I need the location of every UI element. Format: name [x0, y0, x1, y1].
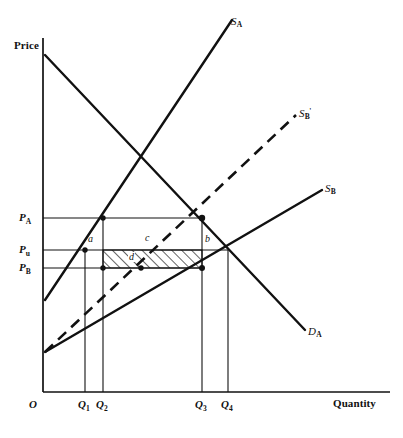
point-marker-sb-pb — [199, 265, 205, 271]
curve-label-sb-base: S — [325, 182, 331, 194]
quantity-tick-q4: Q4 — [221, 399, 233, 410]
quantity-tick-q3-sub: 3 — [203, 404, 207, 413]
curve-label-sb-prime: SB' — [299, 108, 311, 119]
supply-curve-sb — [45, 190, 322, 352]
diagram-canvas — [0, 0, 403, 438]
quantity-tick-q1-sub: 1 — [86, 404, 90, 413]
region-label-b: b — [205, 234, 210, 244]
curve-label-sa: SA — [231, 16, 242, 27]
quantity-tick-q2: Q2 — [96, 399, 108, 410]
curve-label-da-sub: A — [316, 330, 321, 339]
price-tick-pb-sub: B — [26, 267, 31, 276]
curve-label-sbprime-base: S — [299, 107, 305, 119]
curve-label-da-base: D — [308, 325, 316, 337]
point-marker-q2-pb — [100, 265, 105, 270]
origin-label: O — [29, 399, 37, 410]
point-marker-da-pa — [199, 215, 205, 221]
curve-label-sb: SB — [325, 183, 336, 194]
quantity-tick-q4-sub: 4 — [229, 404, 233, 413]
curve-label-sb-sub: B — [331, 187, 336, 196]
supply-demand-figure: Price Quantity O SA SB' SB DA PA Pu PB Q… — [0, 0, 403, 438]
price-tick-pu: Pu — [19, 244, 30, 255]
price-tick-pu-sub: u — [26, 249, 30, 258]
price-tick-pb: PB — [19, 262, 31, 273]
quantity-tick-q3-base: Q — [195, 398, 203, 410]
curve-label-da: DA — [308, 326, 321, 337]
price-tick-pb-base: P — [19, 261, 26, 273]
quantity-tick-q3: Q3 — [195, 399, 207, 410]
price-tick-pa-sub: A — [26, 217, 31, 226]
region-label-a: a — [88, 234, 93, 244]
demand-curve-da — [45, 55, 305, 330]
price-tick-pa-base: P — [19, 211, 26, 223]
quantity-tick-q1: Q1 — [78, 399, 90, 410]
curve-label-sbprime-mark: ' — [310, 106, 312, 116]
price-tick-pa: PA — [19, 212, 31, 223]
quantity-tick-q1-base: Q — [78, 398, 86, 410]
y-axis-title: Price — [14, 40, 39, 51]
hatched-region-d — [103, 250, 202, 268]
point-marker-sa-pu — [82, 247, 87, 252]
price-tick-pu-base: P — [19, 243, 26, 255]
quantity-tick-q2-base: Q — [96, 398, 104, 410]
x-axis-title: Quantity — [333, 398, 376, 409]
region-label-c: c — [145, 233, 149, 243]
curve-label-sa-base: S — [231, 15, 237, 27]
region-label-d: d — [128, 252, 135, 262]
quantity-tick-q4-base: Q — [221, 398, 229, 410]
curve-label-sa-sub: A — [237, 20, 242, 29]
curve-label-sbprime-sub: B — [305, 112, 310, 121]
supply-curve-sb-prime — [45, 115, 296, 352]
point-marker-sbprime-pb — [138, 265, 143, 270]
point-marker-sa-pa — [100, 215, 105, 220]
quantity-tick-q2-sub: 2 — [104, 404, 108, 413]
